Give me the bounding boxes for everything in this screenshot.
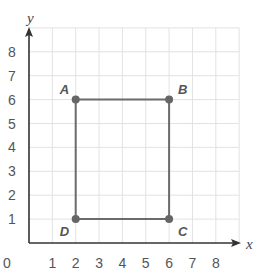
x-tick-label: 6 (165, 255, 173, 271)
x-tick-label: 1 (48, 255, 56, 271)
x-tick-label: 2 (72, 255, 80, 271)
grid-lines (29, 28, 239, 243)
y-tick-label: 6 (8, 92, 16, 108)
vertex-c (165, 215, 173, 223)
y-tick-label: 3 (8, 163, 16, 179)
y-tick-label: 8 (8, 44, 16, 60)
vertex-label-a: A (59, 82, 69, 97)
y-axis-label: y (25, 10, 34, 26)
vertex-b (165, 96, 173, 104)
tick-labels: 1234567812345678 (8, 44, 220, 271)
vertex-d (72, 215, 80, 223)
x-tick-label: 7 (189, 255, 197, 271)
origin-label: 0 (3, 255, 11, 271)
axes (25, 27, 241, 247)
vertex-label-d: D (60, 224, 70, 239)
vertex-label-b: B (178, 82, 187, 97)
x-tick-label: 8 (212, 255, 220, 271)
y-tick-label: 4 (8, 139, 16, 155)
y-tick-label: 5 (8, 116, 16, 132)
vertex-label-c: C (178, 224, 188, 239)
x-tick-label: 5 (142, 255, 150, 271)
vertex-a (72, 96, 80, 104)
y-tick-label: 1 (8, 211, 16, 227)
y-tick-label: 7 (8, 68, 16, 84)
x-tick-label: 3 (95, 255, 103, 271)
x-tick-label: 4 (119, 255, 127, 271)
x-axis-label: x (245, 236, 253, 252)
coordinate-plane: 1234567812345678 ABCD x y 0 (0, 0, 261, 275)
y-tick-label: 2 (8, 187, 16, 203)
